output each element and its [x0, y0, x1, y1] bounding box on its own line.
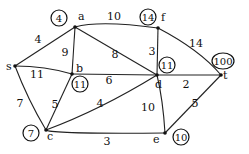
node-dot [163, 131, 167, 135]
edge-line [46, 130, 165, 133]
edge-weight: 9 [62, 46, 69, 59]
edge-weight: 4 [97, 97, 104, 110]
graph-diagram: 4117109831462543105 sa4f14b11d11t100c7e1… [0, 0, 249, 154]
edge-c-e: 3 [46, 130, 165, 148]
node-distance: 11 [161, 60, 174, 71]
edge-weight: 3 [149, 45, 156, 58]
node-t: t100 [212, 53, 234, 82]
node-dot [13, 64, 17, 68]
node-distance: 100 [213, 56, 232, 67]
edge-weight: 5 [52, 98, 59, 111]
edge-weight: 8 [112, 48, 119, 61]
node-distance: 7 [28, 128, 34, 139]
node-distance: 4 [56, 13, 62, 24]
node-label: f [161, 11, 166, 24]
edge-f-d: 3 [149, 28, 159, 75]
node-e: e10 [153, 129, 189, 146]
edge-weight: 10 [107, 10, 121, 23]
edge-line [157, 28, 158, 75]
node-label: t [223, 69, 228, 82]
edge-d-t: 2 [157, 75, 221, 91]
node-s: s [6, 60, 17, 73]
edge-weight: 5 [192, 97, 199, 110]
node-distance: 10 [175, 132, 188, 143]
edge-weight: 4 [35, 33, 42, 46]
node-label: c [47, 130, 53, 143]
edge-weight: 3 [104, 135, 111, 148]
edge-line [72, 27, 75, 74]
node-c: c7 [23, 125, 53, 143]
edges: 4117109831462543105 [15, 10, 221, 148]
edge-weight: 2 [183, 78, 190, 91]
edge-line [72, 74, 157, 75]
edge-weight: 14 [189, 37, 203, 50]
node-label: b [76, 62, 83, 75]
edge-weight: 10 [141, 101, 155, 114]
edge-s-b: 11 [15, 66, 72, 81]
node-d: d11 [155, 57, 175, 91]
node-dot [156, 26, 160, 30]
edge-e-t: 5 [165, 75, 221, 133]
edge-weight: 6 [106, 74, 113, 87]
node-label: d [155, 78, 162, 91]
edge-a-d: 8 [75, 27, 157, 75]
node-dot [73, 25, 77, 29]
node-distance: 11 [74, 79, 87, 90]
node-label: a [78, 10, 85, 23]
node-dot [70, 72, 74, 76]
node-dot [155, 73, 159, 77]
edge-weight: 11 [30, 68, 44, 81]
node-label: e [153, 133, 160, 146]
node-label: s [6, 60, 12, 73]
edge-weight: 7 [17, 97, 24, 110]
node-distance: 14 [142, 12, 155, 23]
